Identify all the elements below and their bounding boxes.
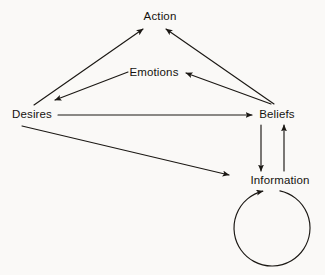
node-label-action: Action [144, 10, 177, 22]
edge-emotions-to-desires [55, 72, 128, 100]
node-label-information: Information [250, 174, 309, 186]
node-label-beliefs: Beliefs [259, 108, 295, 120]
edge-beliefs-to-emotions [186, 73, 271, 104]
diagram-svg: Action Emotions Desires Beliefs Informat… [0, 0, 325, 275]
node-label-emotions: Emotions [129, 66, 178, 78]
edge-desires-to-action [34, 29, 143, 105]
edges-group [22, 29, 284, 175]
information-self-loop [234, 191, 310, 266]
diagram-canvas: Action Emotions Desires Beliefs Informat… [0, 0, 325, 275]
loop-arc [234, 191, 310, 266]
edge-desires-to-information [22, 126, 229, 175]
node-label-desires: Desires [12, 108, 52, 120]
edge-beliefs-to-action [166, 29, 274, 104]
